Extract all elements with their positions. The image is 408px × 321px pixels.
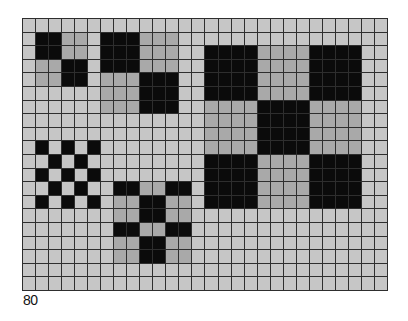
small-2x2-block-pattern-cell <box>75 46 87 59</box>
large-4x4-block-pattern-cell <box>258 46 270 59</box>
medium-3x3-block-pattern-cell <box>127 101 139 114</box>
grid-cell <box>36 250 48 263</box>
grid-cell <box>23 87 35 100</box>
grid-cell <box>271 209 283 222</box>
large-4x4-block-pattern-cell <box>349 182 361 195</box>
large-4x4-block-pattern-cell <box>323 46 335 59</box>
grid-cell <box>75 250 87 263</box>
large-4x4-block-pattern-cell <box>297 196 309 209</box>
grid-cell <box>23 155 35 168</box>
grid-cell <box>271 223 283 236</box>
large-4x4-block-pattern-cell <box>219 182 231 195</box>
large-4x4-block-pattern-cell <box>232 196 244 209</box>
grid-cell <box>375 237 387 250</box>
grid-cell <box>297 250 309 263</box>
grid-cell <box>36 209 48 222</box>
medium-3x3-block-pattern-cell <box>166 33 178 46</box>
grid-cell <box>36 101 48 114</box>
grid-cell <box>140 264 152 277</box>
large-4x4-block-pattern-cell <box>323 114 335 127</box>
large-4x4-block-pattern-cell <box>284 169 296 182</box>
grid-cell <box>75 223 87 236</box>
grid-cell <box>192 60 204 73</box>
large-4x4-block-pattern-cell <box>297 60 309 73</box>
large-4x4-block-pattern-cell <box>297 101 309 114</box>
medium-3x3-block-pattern-cell <box>127 33 139 46</box>
grid-cell <box>62 87 74 100</box>
grid-cell <box>179 155 191 168</box>
grid-cell <box>375 209 387 222</box>
grid-cell <box>75 277 87 290</box>
large-4x4-block-pattern-cell <box>219 60 231 73</box>
grid-cell <box>36 264 48 277</box>
grid-cell <box>258 237 270 250</box>
large-4x4-block-pattern-cell <box>245 141 257 154</box>
grid-cell <box>75 114 87 127</box>
large-4x4-block-pattern-cell <box>310 60 322 73</box>
grid-cell <box>114 155 126 168</box>
large-4x4-block-pattern-cell <box>271 101 283 114</box>
grid-cell <box>362 33 374 46</box>
cross-pattern-cell <box>114 237 126 250</box>
large-4x4-block-pattern-cell <box>219 141 231 154</box>
cross-pattern-cell <box>127 182 139 195</box>
cross-pattern-cell <box>166 209 178 222</box>
grid-cell <box>192 169 204 182</box>
large-4x4-block-pattern-cell <box>297 73 309 86</box>
grid-cell <box>23 196 35 209</box>
grid-cell <box>349 277 361 290</box>
grid-cell <box>75 87 87 100</box>
large-4x4-block-pattern-cell <box>205 196 217 209</box>
grid-cell <box>336 250 348 263</box>
large-4x4-block-pattern-cell <box>349 128 361 141</box>
medium-3x3-block-pattern-cell <box>153 87 165 100</box>
grid-cell <box>179 128 191 141</box>
grid-cell <box>127 155 139 168</box>
large-4x4-block-pattern-cell <box>310 155 322 168</box>
grid-cell <box>205 19 217 32</box>
medium-3x3-block-pattern-cell <box>127 87 139 100</box>
large-4x4-block-pattern-cell <box>310 101 322 114</box>
grid-cell <box>88 19 100 32</box>
grid-cell <box>153 169 165 182</box>
grid-cell <box>362 223 374 236</box>
medium-3x3-block-pattern-cell <box>114 73 126 86</box>
grid-cell <box>179 114 191 127</box>
grid-cell <box>23 60 35 73</box>
large-4x4-block-pattern-cell <box>310 87 322 100</box>
large-4x4-block-pattern-cell <box>245 60 257 73</box>
large-4x4-block-pattern-cell <box>323 60 335 73</box>
medium-3x3-block-pattern-cell <box>166 60 178 73</box>
grid-cell <box>62 250 74 263</box>
large-4x4-block-pattern-cell <box>258 182 270 195</box>
large-4x4-block-pattern-cell <box>349 101 361 114</box>
large-4x4-block-pattern-cell <box>336 169 348 182</box>
medium-3x3-block-pattern-cell <box>101 60 113 73</box>
large-4x4-block-pattern-cell <box>349 196 361 209</box>
small-2x2-block-pattern-cell <box>49 60 61 73</box>
small-2x2-block-pattern-cell <box>75 73 87 86</box>
large-4x4-block-pattern-cell <box>205 169 217 182</box>
medium-3x3-block-pattern-cell <box>127 60 139 73</box>
grid-cell <box>245 209 257 222</box>
large-4x4-block-pattern-cell <box>258 73 270 86</box>
grid-cell <box>245 223 257 236</box>
cross-pattern-cell <box>114 250 126 263</box>
grid-cell <box>349 209 361 222</box>
checkerboard-pattern-cell <box>75 196 87 209</box>
grid-cell <box>192 209 204 222</box>
grid-cell <box>362 19 374 32</box>
grid-cell <box>179 46 191 59</box>
grid-cell <box>36 128 48 141</box>
large-4x4-block-pattern-cell <box>245 73 257 86</box>
medium-3x3-block-pattern-cell <box>140 87 152 100</box>
large-4x4-block-pattern-cell <box>297 114 309 127</box>
checkerboard-pattern-cell <box>88 169 100 182</box>
grid-cell <box>75 19 87 32</box>
grid-cell <box>336 19 348 32</box>
grid-cell <box>101 237 113 250</box>
grid-cell <box>271 19 283 32</box>
small-2x2-block-pattern-cell <box>62 33 74 46</box>
grid-cell <box>375 141 387 154</box>
grid-cell <box>336 223 348 236</box>
